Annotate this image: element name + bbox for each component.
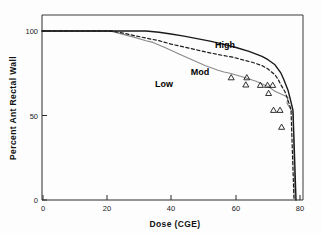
chart-figure: 0 20 40 60 80 0 50 100 Dose (CGE) Percen… [0, 0, 322, 233]
x-tick-labels: 0 20 40 60 80 [41, 204, 304, 213]
x-tick-label: 0 [41, 204, 45, 213]
curve-label-low: Low [155, 79, 174, 89]
x-axis-label: Dose (CGE) [149, 219, 200, 229]
y-tick-label: 100 [25, 27, 38, 36]
data-point-triangle [271, 107, 277, 112]
curve-label-mod: Mod [191, 67, 210, 77]
data-point-triangle [266, 90, 272, 95]
y-tick-label: 50 [30, 112, 38, 121]
data-point-triangle [279, 124, 285, 129]
curve-label-high: High [215, 40, 235, 50]
plot-frame [42, 15, 303, 200]
x-tick-label: 20 [103, 204, 111, 213]
y-axis-label: Percent Ant Rectal Wall [8, 56, 18, 160]
x-tick-label: 60 [232, 204, 240, 213]
y-tick-labels: 0 50 100 [25, 27, 38, 205]
data-point-triangle [270, 82, 276, 87]
data-point-triangle [228, 75, 234, 80]
curve-mod [42, 31, 294, 200]
dvh-chart-svg: 0 20 40 60 80 0 50 100 Dose (CGE) Percen… [0, 0, 322, 233]
data-point-triangle [277, 107, 283, 112]
x-tick-label: 80 [296, 204, 304, 213]
curve-high [42, 31, 296, 200]
x-tick-label: 40 [167, 204, 175, 213]
data-point-triangle [243, 82, 249, 87]
data-point-triangle [257, 82, 263, 87]
y-tick-label: 0 [34, 196, 38, 205]
scatter-markers [228, 75, 284, 130]
x-axis-ticks [43, 195, 300, 200]
y-axis-ticks [42, 31, 47, 200]
curve-low [42, 31, 295, 200]
